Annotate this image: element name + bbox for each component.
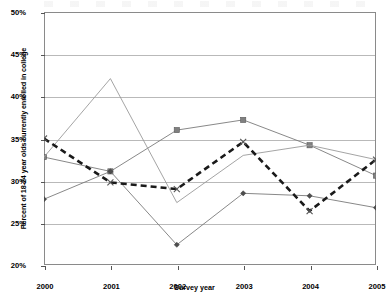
series-line-series-square <box>44 120 376 176</box>
series-line-series-diamond <box>44 171 376 244</box>
marker-x <box>307 208 313 214</box>
x-tick-mark <box>111 266 112 270</box>
x-tick-mark <box>178 266 179 270</box>
x-tick-mark <box>311 266 312 270</box>
marker-diamond <box>307 193 312 198</box>
marker-x <box>240 139 246 145</box>
marker-square <box>241 117 246 122</box>
x-tick-mark <box>244 266 245 270</box>
series-line-series-x-dashed <box>44 139 376 212</box>
y-tick-label: 50% <box>0 9 26 17</box>
x-tick-mark <box>45 266 46 270</box>
marker-square <box>373 173 376 178</box>
series-layer <box>44 12 376 265</box>
line-chart: Percent of 18-24 year olds currently enr… <box>0 0 389 295</box>
y-tick-label: 20% <box>0 262 26 270</box>
y-tick-label: 30% <box>0 178 26 186</box>
marker-square <box>174 127 179 132</box>
series-line-series-triangle <box>44 79 376 203</box>
marker-diamond <box>373 205 376 210</box>
marker-diamond <box>44 197 47 202</box>
y-tick-label: 45% <box>0 51 26 59</box>
x-tick-mark <box>377 266 378 270</box>
x-axis-title: Survey year <box>0 283 389 292</box>
y-tick-label: 40% <box>0 93 26 101</box>
y-tick-label: 35% <box>0 136 26 144</box>
cropped-legend-artifact <box>44 1 376 7</box>
y-tick-label: 25% <box>0 220 26 228</box>
